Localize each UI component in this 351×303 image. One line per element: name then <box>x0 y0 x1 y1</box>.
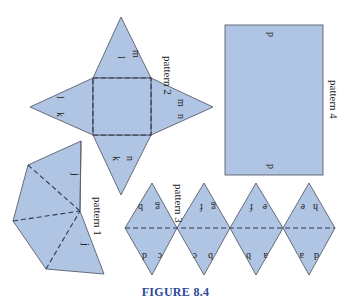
pattern-3-rhombus-3 <box>230 183 283 275</box>
pattern-1-net: j j pattern 1 <box>13 141 104 274</box>
pattern-2-bottom-face <box>93 135 151 195</box>
face-letter: b <box>208 251 213 262</box>
face-letter: a <box>263 251 268 262</box>
pattern-3-label: pattern 3 <box>173 184 185 223</box>
face-letter: a <box>299 251 304 262</box>
face-letter: c <box>157 251 162 262</box>
face-letter: j <box>80 242 91 246</box>
pattern-3-net: b g f g f e e h d c c b b a a d pattern … <box>125 183 335 275</box>
face-letter: k <box>55 112 66 117</box>
pattern-2-top-face <box>93 17 151 78</box>
face-letter: m <box>131 50 142 58</box>
pattern-4-net: p p pattern 4 <box>225 25 340 175</box>
pattern-2-base-square <box>93 78 151 135</box>
face-letter: d <box>142 251 147 262</box>
face-letter: h <box>313 202 318 213</box>
face-letter: e <box>262 202 267 213</box>
face-letter: p <box>266 164 277 169</box>
face-letter: l <box>116 56 127 59</box>
face-letter: p <box>266 32 277 37</box>
pattern-3-rhombus-4 <box>283 183 335 275</box>
pattern-1-label: pattern 1 <box>92 197 104 236</box>
face-letter: m <box>176 99 187 107</box>
figure-canvas: l m k l m n k n pattern 2 p p pattern 4 … <box>0 0 351 303</box>
face-letter: b <box>246 251 251 262</box>
figure-caption: FIGURE 8.4 <box>0 285 351 300</box>
pattern-3-rhombus-1 <box>125 183 177 275</box>
pattern-2-label: pattern 2 <box>162 56 174 95</box>
face-letter: g <box>155 202 160 213</box>
face-letter: e <box>300 202 305 213</box>
face-letter: n <box>176 114 187 119</box>
face-letter: k <box>111 156 122 161</box>
pattern-4-rectangle <box>225 25 323 175</box>
pattern-1-outline <box>13 141 104 274</box>
face-letter: n <box>125 156 136 161</box>
pattern-4-label: pattern 4 <box>328 80 340 119</box>
face-letter: j <box>70 172 81 176</box>
face-letter: b <box>138 202 143 213</box>
face-letter: l <box>55 96 66 99</box>
face-letter: c <box>192 251 197 262</box>
face-letter: g <box>211 202 216 213</box>
pattern-2-left-face <box>30 78 93 135</box>
face-letter: d <box>314 251 319 262</box>
